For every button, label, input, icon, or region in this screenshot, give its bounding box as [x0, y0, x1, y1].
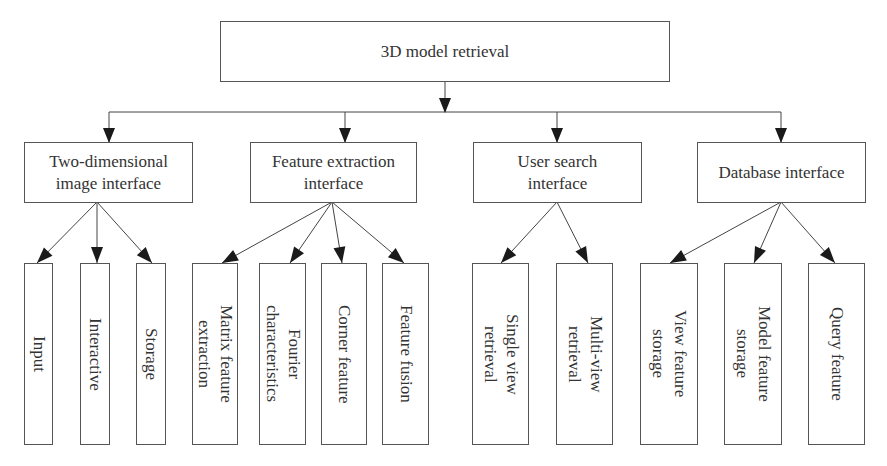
branch-user-search-interface: User search interface — [473, 142, 642, 203]
leaf-label-line: storage — [647, 310, 669, 397]
leaf-label-line: Single view — [501, 314, 523, 395]
arrow-icon — [439, 98, 451, 113]
leaf-label-line: Model feature — [753, 306, 775, 402]
leaf-fourier-characteristics: Fourier characteristics — [259, 263, 306, 445]
arrow-icon — [820, 247, 835, 263]
leaf-label-line: Fourier — [283, 305, 305, 402]
leaf-label-line: Multi-view — [585, 316, 607, 393]
branch-label-line: User search — [518, 151, 598, 173]
leaf-label-line: retrieval — [563, 316, 585, 393]
branch-two-dimensional-image-interface: Two-dimensional image interface — [24, 142, 193, 203]
arrow-icon — [333, 246, 345, 263]
leaf-label-line: Corner feature — [335, 305, 354, 404]
leaf-label-line: Interactive — [86, 318, 105, 391]
leaf-storage: Storage — [136, 263, 166, 445]
arrow-icon — [339, 128, 351, 143]
leaf-query-feature: Query feature — [808, 263, 865, 445]
arrow-icon — [137, 247, 152, 263]
arrow-icon — [775, 128, 787, 143]
leaf-label-line: storage — [731, 306, 753, 402]
leaf-label-line: Storage — [142, 328, 161, 380]
leaf-matrix-feature-extraction: Matrix feature extraction — [192, 263, 238, 445]
leaf-view-feature-storage: View feature storage — [640, 263, 698, 445]
arrow-icon — [222, 250, 239, 263]
arrow-icon — [575, 246, 588, 263]
branch-label-line: Database interface — [719, 162, 845, 184]
leaf-label-line: View feature — [669, 310, 691, 397]
arrow-icon — [290, 246, 304, 263]
branch-label-line: interface — [518, 173, 598, 195]
child-arrowheads — [37, 246, 835, 263]
root-label: 3D model retrieval — [381, 42, 509, 62]
root-node: 3D model retrieval — [220, 21, 670, 82]
leaf-feature-fusion: Feature fusion — [382, 263, 429, 445]
leaf-label-line: retrieval — [479, 314, 501, 395]
leaf-model-feature-storage: Model feature storage — [724, 263, 782, 445]
leaf-label-line: Matrix feature — [215, 305, 237, 403]
leaf-label-line: characteristics — [261, 305, 283, 402]
branch-feature-extraction-interface: Feature extraction interface — [250, 142, 417, 203]
leaf-label-line: Query feature — [828, 307, 847, 401]
branch-database-interface: Database interface — [697, 142, 866, 203]
arrow-icon — [91, 247, 103, 263]
arrow-icon — [103, 128, 115, 143]
branch-label-line: image interface — [49, 173, 168, 195]
leaf-label-line: Input — [30, 336, 49, 372]
leaf-input: Input — [24, 263, 53, 445]
arrow-icon — [670, 250, 687, 263]
leaf-corner-feature: Corner feature — [321, 263, 367, 445]
arrowheads — [103, 98, 787, 143]
leaf-multi-view-retrieval: Multi-view retrieval — [556, 263, 613, 445]
arrow-icon — [551, 128, 563, 143]
leaf-single-view-retrieval: Single view retrieval — [472, 263, 529, 445]
arrow-icon — [388, 248, 404, 263]
leaf-interactive: Interactive — [80, 263, 110, 445]
arrow-icon — [754, 246, 766, 263]
branch-label-line: interface — [272, 173, 395, 195]
leaf-label-line: extraction — [193, 305, 215, 403]
branch-label-line: Feature extraction — [272, 151, 395, 173]
leaf-label-line: Feature fusion — [397, 305, 416, 403]
branch-label-line: Two-dimensional — [49, 151, 168, 173]
